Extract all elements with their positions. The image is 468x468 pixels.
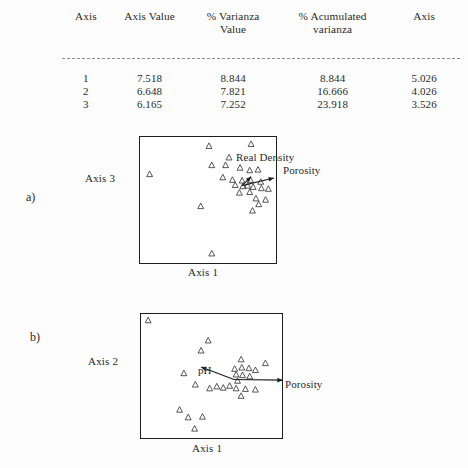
data-point-marker	[252, 387, 258, 393]
cell-axis: 1	[62, 71, 110, 84]
header-variance-line2: Value	[220, 23, 246, 35]
panel-tag-b: b)	[30, 330, 40, 345]
data-point-marker	[239, 364, 245, 370]
data-point-marker	[232, 182, 238, 188]
data-point-marker	[247, 177, 253, 183]
data-point-marker	[233, 385, 239, 391]
data-point-marker	[185, 414, 191, 420]
header-axis: Axis	[62, 10, 110, 39]
data-point-marker	[247, 373, 253, 379]
data-point-marker	[235, 378, 241, 384]
vector-label-ph: pH	[198, 364, 212, 376]
data-point-marker	[247, 189, 253, 195]
data-point-marker	[262, 360, 268, 366]
data-point-marker	[198, 347, 204, 353]
header-variance: % Varianza Value	[189, 10, 277, 39]
vector-arrow-porosity	[242, 178, 274, 186]
cell-axis-right: 4.026	[388, 84, 460, 97]
data-point-marker	[232, 366, 238, 372]
data-point-marker	[258, 185, 264, 191]
header-variance-line1: % Varianza	[207, 10, 260, 22]
data-point-marker	[192, 381, 198, 387]
cell-variance: 8.844	[189, 71, 277, 84]
cell-axis-right: 3.526	[388, 97, 460, 110]
table-row: 2 6.648 7.821 16.666 4.026	[62, 84, 460, 97]
data-point-marker	[242, 386, 248, 392]
table-body: 1 7.518 8.844 8.844 5.026 2 6.648 7.821 …	[62, 71, 460, 111]
data-point-marker	[226, 154, 232, 160]
variance-table-container: Axis Axis Value % Varianza Value % Acumu…	[62, 10, 460, 39]
data-point-marker	[237, 165, 243, 171]
data-point-marker	[207, 385, 213, 391]
scatter-plot-b	[140, 313, 283, 439]
data-point-marker	[206, 143, 212, 149]
data-point-marker	[209, 250, 215, 256]
cell-variance: 7.252	[189, 97, 277, 110]
data-point-marker	[236, 190, 242, 196]
data-point-marker	[198, 203, 204, 209]
data-point-marker	[177, 407, 183, 413]
figure-page: Axis Axis Value % Varianza Value % Acumu…	[0, 0, 468, 468]
vector-label-porosity-a: Porosity	[283, 164, 320, 176]
data-point-marker	[255, 167, 261, 173]
header-axis-right: Axis	[388, 10, 460, 39]
data-point-marker	[258, 179, 264, 185]
data-point-marker	[253, 195, 259, 201]
cell-axis-value: 7.518	[110, 71, 190, 84]
table-header-row: Axis Axis Value % Varianza Value % Acumu…	[62, 10, 460, 39]
data-point-marker	[250, 184, 256, 190]
data-point-marker	[220, 174, 226, 180]
header-acumulated-variance: % Acumulated varianza	[277, 10, 388, 39]
cell-axis-right: 5.026	[388, 71, 460, 84]
table-row: 3 6.165 7.252 23.918 3.526	[62, 97, 460, 110]
table-separator-rule	[62, 58, 460, 60]
data-point-marker	[192, 426, 198, 432]
cell-acumulated: 8.844	[277, 71, 388, 84]
data-point-marker	[265, 186, 271, 192]
vector-arrowhead	[246, 177, 251, 182]
variance-table: Axis Axis Value % Varianza Value % Acumu…	[62, 10, 460, 39]
table-header: Axis Axis Value % Varianza Value % Acumu…	[62, 10, 460, 39]
cell-axis-value: 6.165	[110, 97, 190, 110]
data-point-marker	[230, 177, 236, 183]
data-point-marker	[227, 383, 233, 389]
table-row: 1 7.518 8.844 8.844 5.026	[62, 71, 460, 84]
data-point-marker	[245, 183, 251, 189]
data-point-marker	[248, 141, 254, 147]
vector-label-porosity-b: Porosity	[285, 378, 322, 390]
vector-arrow-real-density	[242, 177, 251, 186]
data-point-marker	[256, 201, 262, 207]
data-point-marker	[246, 365, 252, 371]
cell-axis: 3	[62, 97, 110, 110]
data-point-marker	[250, 208, 256, 214]
variance-table-body: 1 7.518 8.844 8.844 5.026 2 6.648 7.821 …	[62, 71, 460, 111]
cell-variance: 7.821	[189, 84, 277, 97]
data-point-marker	[181, 370, 187, 376]
header-axis-value: Axis Value	[110, 10, 190, 39]
data-point-marker	[214, 383, 220, 389]
scatter-plot-b-canvas	[141, 314, 284, 440]
panel-b-y-axis-label: Axis 2	[88, 355, 118, 367]
vector-arrowhead	[268, 177, 274, 181]
data-point-marker	[240, 183, 246, 189]
vector-label-real-density: Real Density	[236, 151, 294, 163]
data-point-marker	[147, 171, 153, 177]
data-point-marker	[145, 317, 151, 323]
panel-a-y-axis-label: Axis 3	[85, 172, 115, 184]
vector-arrow-porosity	[234, 380, 283, 381]
data-point-marker	[209, 162, 215, 168]
variance-table-body-container: 1 7.518 8.844 8.844 5.026 2 6.648 7.821 …	[62, 71, 460, 111]
panel-a-x-axis-label: Axis 1	[188, 266, 218, 278]
data-point-marker	[220, 385, 226, 391]
panel-b-x-axis-label: Axis 1	[192, 442, 222, 454]
data-point-marker	[240, 372, 246, 378]
data-point-marker	[252, 367, 258, 373]
cell-axis: 2	[62, 84, 110, 97]
data-point-marker	[239, 177, 245, 183]
cell-acumulated: 23.918	[277, 97, 388, 110]
cell-acumulated: 16.666	[277, 84, 388, 97]
data-point-marker	[238, 393, 244, 399]
data-point-marker	[200, 414, 206, 420]
data-point-marker	[223, 162, 229, 168]
data-point-marker	[238, 356, 244, 362]
